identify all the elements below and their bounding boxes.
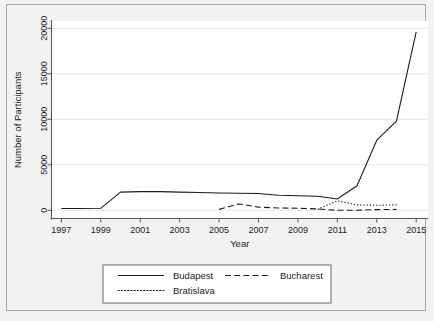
y-tick-label: 10000 [40, 107, 50, 132]
x-tick-label: 2009 [288, 225, 308, 235]
chart-legend: BudapestBucharestBratislava [103, 265, 331, 303]
figure-container: 0500010000150002000019971999200120032005… [0, 0, 434, 321]
x-tick-label: 1997 [51, 225, 71, 235]
y-tick-label: 15000 [40, 61, 50, 86]
x-axis-title: Year [230, 238, 249, 249]
y-tick-label: 5000 [40, 155, 50, 175]
y-tick-label: 0 [40, 208, 50, 213]
legend-label-bucharest: Bucharest [280, 270, 323, 281]
x-axis-ticks: 1997199920012003200520072009201120132015 [51, 219, 426, 235]
x-tick-label: 2001 [130, 225, 150, 235]
x-tick-label: 2003 [170, 225, 190, 235]
legend-label-budapest: Budapest [173, 270, 214, 281]
x-tick-label: 2007 [248, 225, 268, 235]
x-tick-label: 2005 [209, 225, 229, 235]
y-axis-title: Number of Participants [12, 71, 23, 168]
y-tick-label: 20000 [40, 16, 50, 41]
x-tick-label: 2013 [367, 225, 387, 235]
legend-label-bratislava: Bratislava [173, 285, 215, 296]
x-tick-label: 2011 [328, 225, 347, 235]
y-axis-ticks: 05000100001500020000 [40, 16, 52, 213]
line-chart: 0500010000150002000019971999200120032005… [0, 0, 434, 321]
x-tick-label: 2015 [406, 225, 426, 235]
x-tick-label: 1999 [91, 225, 111, 235]
